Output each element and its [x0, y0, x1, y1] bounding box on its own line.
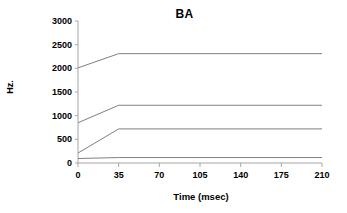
x-axis-title: Time (msec) [78, 191, 324, 202]
x-tick-label: 175 [261, 170, 301, 180]
data-series-line-f4 [78, 54, 322, 68]
x-tick-label: 35 [99, 170, 139, 180]
data-series-line-f2 [78, 129, 322, 153]
data-series-line-f3 [78, 105, 322, 123]
chart-container: BA Hz. 050010001500200025003000 03570105… [0, 0, 347, 213]
x-tick-label: 70 [139, 170, 179, 180]
x-axis-tick-labels: 03570105140175210 [0, 170, 347, 186]
x-tick-label: 0 [58, 170, 98, 180]
data-series-line-f1 [78, 158, 322, 159]
x-tick-label: 105 [180, 170, 220, 180]
x-tick-label: 210 [302, 170, 342, 180]
x-tick-label: 140 [221, 170, 261, 180]
